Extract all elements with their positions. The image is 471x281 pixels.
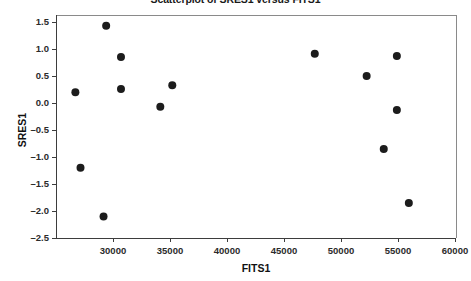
data-point bbox=[311, 50, 319, 58]
scatterplot-figure: Scatterplot of SRES1 versus FITS1 1.51.0… bbox=[0, 0, 471, 281]
data-point-series bbox=[71, 22, 412, 221]
data-point bbox=[117, 85, 125, 93]
y-axis-title: SRES1 bbox=[16, 113, 28, 148]
y-tick-label: –2.5 bbox=[31, 232, 50, 243]
y-tick-label: –0.5 bbox=[31, 124, 50, 135]
x-tick-label: 50000 bbox=[328, 245, 354, 256]
x-tick-label: 55000 bbox=[385, 245, 411, 256]
y-tick-label: 0.5 bbox=[36, 70, 50, 81]
x-tick-label: 60000 bbox=[442, 245, 468, 256]
y-axis-ticks: 1.51.00.50.0–0.5–1.0–1.5–2.0–2.5 bbox=[31, 16, 57, 243]
x-tick-label: 35000 bbox=[157, 245, 183, 256]
data-point bbox=[102, 22, 110, 30]
data-point bbox=[117, 53, 125, 61]
data-point bbox=[168, 81, 176, 89]
data-point bbox=[363, 72, 371, 80]
x-tick-label: 40000 bbox=[214, 245, 240, 256]
data-point bbox=[156, 103, 164, 111]
plot-frame bbox=[56, 15, 456, 238]
data-point bbox=[100, 212, 108, 220]
y-tick-label: –1.0 bbox=[31, 151, 50, 162]
x-tick-label: 30000 bbox=[100, 245, 126, 256]
data-point bbox=[405, 199, 413, 207]
data-point bbox=[393, 106, 401, 114]
plot-canvas: 1.51.00.50.0–0.5–1.0–1.5–2.0–2.5 3000035… bbox=[0, 0, 471, 281]
y-tick-label: 1.5 bbox=[36, 16, 50, 27]
y-tick-label: 0.0 bbox=[36, 97, 49, 108]
x-tick-label: 45000 bbox=[271, 245, 297, 256]
data-point bbox=[71, 88, 79, 96]
y-tick-label: –2.0 bbox=[31, 205, 50, 216]
data-point bbox=[380, 145, 388, 153]
y-tick-label: 1.0 bbox=[36, 43, 49, 54]
y-tick-label: –1.5 bbox=[31, 178, 50, 189]
data-point bbox=[77, 164, 85, 172]
data-point bbox=[393, 52, 401, 60]
x-axis-ticks: 30000350004000045000500005500060000 bbox=[100, 238, 468, 256]
x-axis-title: FITS1 bbox=[242, 262, 271, 274]
